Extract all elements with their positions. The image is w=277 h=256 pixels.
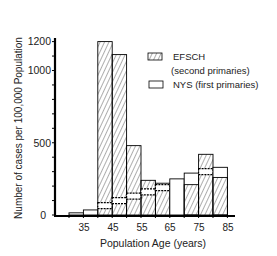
- x-axis-title: Population Age (years): [100, 237, 206, 249]
- bar-nys-level: [98, 203, 112, 209]
- x-label-35: 35: [78, 222, 90, 233]
- y-axis-title: Number of cases per 100,000 Population: [13, 37, 24, 219]
- legend-label-efsch: EFSCH: [173, 51, 205, 62]
- bar-nys: [170, 179, 184, 215]
- bar-nys-level: [127, 193, 141, 199]
- legend-swatch-hatched: [148, 53, 162, 60]
- bar-efsch: [141, 180, 155, 215]
- x-label-45: 45: [107, 222, 119, 233]
- chart-svg: Number of cases per 100,000 Population P…: [0, 0, 277, 256]
- legend-swatch-open: [149, 81, 163, 88]
- bar-nys-level: [155, 185, 169, 191]
- x-label-75: 75: [193, 222, 205, 233]
- x-label-55: 55: [136, 222, 148, 233]
- bar-nys: [69, 213, 83, 215]
- y-label-0: 0: [40, 209, 46, 221]
- bar-efsch: [98, 42, 112, 215]
- bar-efsch: [199, 154, 213, 215]
- y-label-1200: 1200: [28, 35, 52, 47]
- legend-label-nys: NYS (first primaries): [173, 79, 259, 90]
- bar-efsch: [213, 177, 227, 215]
- legend-sublabel-efsch: (second primaries): [171, 65, 250, 76]
- bar-nys-level: [199, 169, 213, 175]
- x-label-65: 65: [164, 222, 176, 233]
- bar-efsch: [127, 146, 141, 215]
- bar-efsch: [184, 185, 198, 215]
- x-label-85: 85: [222, 222, 234, 233]
- bar-nys-level: [141, 189, 155, 195]
- bar-nys: [83, 210, 97, 215]
- bar-efsch: [112, 55, 126, 215]
- y-label-500: 500: [33, 137, 51, 149]
- legend: EFSCH (second primaries) NYS (first prim…: [148, 51, 259, 90]
- y-label-1000: 1000: [28, 64, 52, 76]
- histogram-chart: Number of cases per 100,000 Population P…: [0, 0, 277, 256]
- bar-nys-level: [112, 198, 126, 204]
